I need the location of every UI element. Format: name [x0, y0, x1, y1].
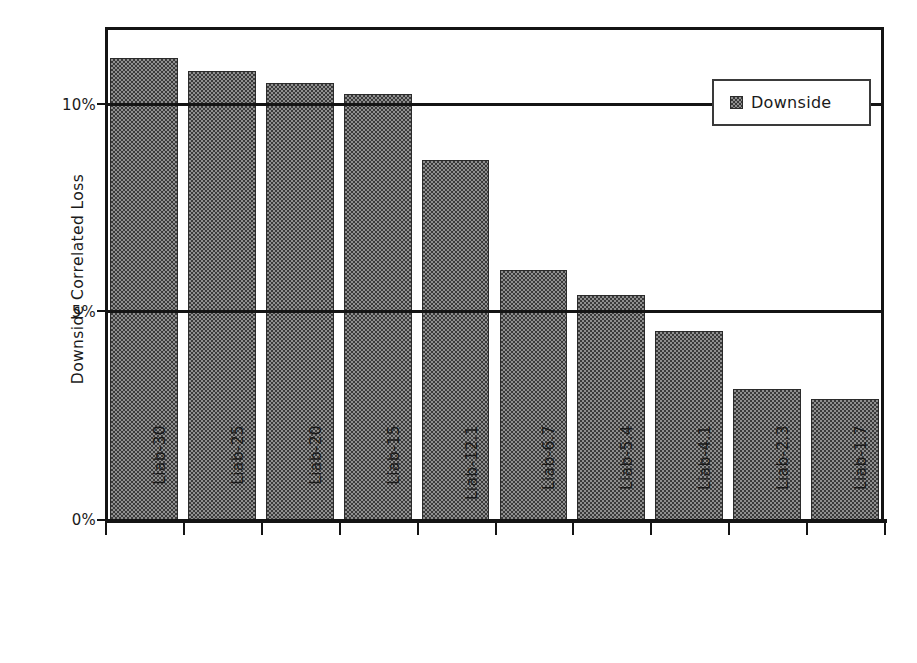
y-axis-tick-labels: 10% 5% 0% [40, 0, 96, 663]
x-axis-label-liab-5-4: Liab-5.4 [618, 425, 636, 545]
x-axis-label-liab-2-3: Liab-2.3 [774, 425, 792, 545]
x-axis-label-liab-25: Liab-25 [229, 425, 247, 545]
legend-swatch-downside-icon [730, 96, 743, 109]
y-tick-label-10: 10% [50, 96, 96, 114]
x-axis-label-liab-12-1: Liab-12.1 [463, 425, 481, 545]
gridline-5 [105, 310, 884, 313]
x-tick-mark-4 [417, 523, 419, 535]
x-tick-mark-0 [105, 523, 107, 535]
x-tick-mark-2 [261, 523, 263, 535]
x-axis-label-liab-15: Liab-15 [385, 425, 403, 545]
x-tick-mark-9 [806, 523, 808, 535]
x-axis-label-liab-1-7: Liab-1.7 [852, 425, 870, 545]
bar-chart: Downside Correlated Loss 10% 5% 0% Liab-… [0, 0, 917, 663]
x-axis-label-liab-20: Liab-20 [307, 425, 325, 545]
x-tick-mark-1 [183, 523, 185, 535]
x-axis-label-liab-4-1: Liab-4.1 [696, 425, 714, 545]
x-tick-mark-3 [339, 523, 341, 535]
x-axis-label-liab-6-7: Liab-6.7 [540, 425, 558, 545]
y-tick-label-0: 0% [50, 511, 96, 529]
x-tick-mark-end [884, 523, 886, 535]
x-tick-mark-5 [495, 523, 497, 535]
legend-label-downside: Downside [751, 93, 832, 112]
y-tick-label-5: 5% [50, 303, 96, 321]
x-axis-label-liab-30: Liab-30 [151, 425, 169, 545]
x-tick-mark-8 [728, 523, 730, 535]
x-tick-mark-6 [572, 523, 574, 535]
legend: Downside [712, 79, 871, 126]
x-tick-mark-7 [650, 523, 652, 535]
